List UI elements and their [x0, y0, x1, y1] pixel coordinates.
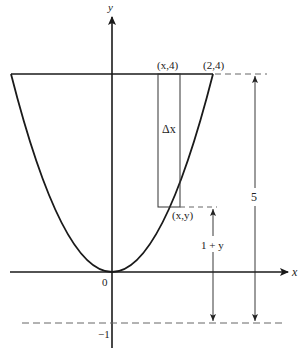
- x-axis-label: x: [291, 265, 298, 279]
- distance-1py-label: 1 + y: [201, 239, 224, 251]
- diagram-canvas: y x 0 −1 (x,4) (2,4) (x,y) Δx 5 1 + y: [0, 0, 306, 361]
- point-label-2-4: (2,4): [203, 59, 224, 72]
- point-label-xy: (x,y): [172, 209, 193, 222]
- y-axis-label: y: [107, 1, 113, 13]
- delta-x-label: Δx: [162, 122, 176, 136]
- point-label-x4: (x,4): [157, 59, 178, 72]
- neg-one-label: −1: [98, 328, 110, 340]
- strip-rectangle: [158, 74, 180, 207]
- distance-5-label: 5: [251, 190, 257, 204]
- origin-label: 0: [102, 276, 108, 288]
